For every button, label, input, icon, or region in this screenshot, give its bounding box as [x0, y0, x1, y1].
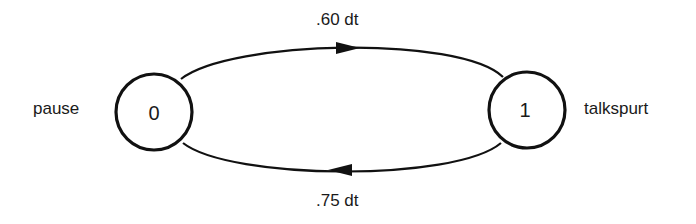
- arrow-left-icon: [328, 164, 352, 176]
- state-1-number: 1: [505, 98, 545, 122]
- transition-label-1-to-0: .75 dt: [316, 191, 359, 211]
- state-1-name: talkspurt: [584, 99, 648, 119]
- arrow-right-icon: [336, 42, 360, 54]
- state-0-name: pause: [33, 99, 79, 119]
- state-diagram: 0 1 pause talkspurt .60 dt .75 dt: [0, 0, 696, 224]
- transition-label-0-to-1: .60 dt: [316, 10, 359, 30]
- state-0-number: 0: [134, 101, 174, 125]
